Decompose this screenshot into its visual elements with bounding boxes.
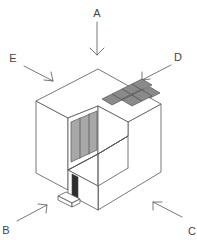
cube-drawing (0, 0, 197, 240)
label-b: B (2, 225, 9, 236)
label-a: A (93, 8, 100, 19)
label-d: D (174, 52, 182, 63)
label-c: C (188, 226, 196, 237)
arrow-b (17, 204, 47, 221)
diagram-canvas: A E D B C (0, 0, 197, 240)
cube (36, 69, 161, 210)
arrow-a (90, 22, 104, 55)
arrow-d (142, 65, 171, 80)
arrow-e (24, 66, 53, 81)
label-e: E (9, 53, 16, 64)
arrow-c (153, 202, 182, 217)
